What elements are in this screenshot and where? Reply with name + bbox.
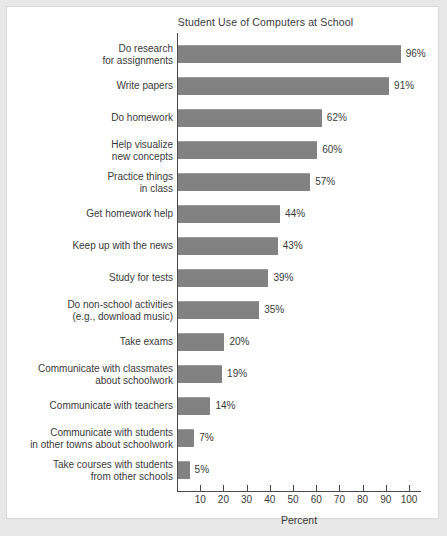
axis-tick	[293, 485, 294, 491]
category-label: Do homework	[11, 112, 173, 124]
axis-tick	[363, 485, 364, 491]
bar-row: Do research for assignments96%	[7, 38, 440, 70]
chart-title: Student Use of Computers at School	[7, 16, 440, 28]
category-label: Write papers	[11, 80, 173, 92]
chart-panel: Student Use of Computers at School Do re…	[6, 6, 439, 519]
axis-tick	[200, 485, 201, 491]
category-label: Do non-school activities (e.g., download…	[11, 299, 173, 322]
chart-page: Student Use of Computers at School Do re…	[0, 0, 447, 536]
bar-value-label: 5%	[195, 462, 209, 478]
category-label: Help visualize new concepts	[11, 139, 173, 162]
bar-value-label: 7%	[199, 430, 213, 446]
bar-value-label: 20%	[229, 334, 249, 350]
bar-row: Write papers91%	[7, 70, 440, 102]
axis-tick	[270, 485, 271, 491]
bar	[178, 173, 310, 191]
category-label: Study for tests	[11, 272, 173, 284]
category-label: Communicate with classmates about school…	[11, 363, 173, 386]
bar-value-label: 39%	[273, 270, 293, 286]
bar-value-label: 14%	[215, 398, 235, 414]
bar-row: Communicate with teachers14%	[7, 390, 440, 422]
bar-row: Take exams20%	[7, 326, 440, 358]
category-label: Communicate with students in other towns…	[11, 427, 173, 450]
bar	[178, 77, 389, 95]
bar	[178, 397, 210, 415]
axis-tick	[409, 485, 410, 491]
axis-tick-label: 20	[218, 494, 229, 505]
axis-tick	[339, 485, 340, 491]
category-label: Take exams	[11, 336, 173, 348]
bar	[178, 461, 190, 479]
bar-value-label: 96%	[406, 46, 426, 62]
axis-tick	[223, 485, 224, 491]
bar-row: Practice things in class57%	[7, 166, 440, 198]
bar-value-label: 35%	[264, 302, 284, 318]
category-label: Take courses with students from other sc…	[11, 459, 173, 482]
bar	[178, 45, 401, 63]
bar	[178, 269, 268, 287]
bar	[178, 429, 194, 447]
value-axis-title: Percent	[177, 514, 421, 526]
axis-tick-label: 30	[241, 494, 252, 505]
plot-area: Do research for assignments96%Write pape…	[7, 33, 440, 503]
bar	[178, 333, 224, 351]
bar-value-label: 62%	[327, 110, 347, 126]
category-label: Get homework help	[11, 208, 173, 220]
bar-row: Do homework62%	[7, 102, 440, 134]
bar-value-label: 60%	[322, 142, 342, 158]
value-axis-line	[177, 491, 421, 492]
axis-tick-label: 100	[401, 494, 418, 505]
bar-value-label: 43%	[283, 238, 303, 254]
category-label: Practice things in class	[11, 171, 173, 194]
bar-row: Keep up with the news43%	[7, 230, 440, 262]
bar	[178, 141, 317, 159]
bar-row: Help visualize new concepts60%	[7, 134, 440, 166]
bar	[178, 301, 259, 319]
bar-row: Study for tests39%	[7, 262, 440, 294]
axis-tick-label: 40	[264, 494, 275, 505]
bar-row: Take courses with students from other sc…	[7, 454, 440, 486]
bar	[178, 237, 278, 255]
bar	[178, 205, 280, 223]
bar-row: Get homework help44%	[7, 198, 440, 230]
axis-tick-label: 10	[195, 494, 206, 505]
axis-tick-label: 50	[287, 494, 298, 505]
axis-tick	[316, 485, 317, 491]
bar-value-label: 91%	[394, 78, 414, 94]
category-label: Do research for assignments	[11, 43, 173, 66]
axis-tick	[386, 485, 387, 491]
bar-value-label: 57%	[315, 174, 335, 190]
bar-row: Communicate with students in other towns…	[7, 422, 440, 454]
bar	[178, 109, 322, 127]
bar	[178, 365, 222, 383]
category-label: Keep up with the news	[11, 240, 173, 252]
axis-tick-label: 90	[380, 494, 391, 505]
bar-value-label: 44%	[285, 206, 305, 222]
category-label: Communicate with teachers	[11, 400, 173, 412]
bar-row: Do non-school activities (e.g., download…	[7, 294, 440, 326]
axis-tick-label: 70	[334, 494, 345, 505]
bar-row: Communicate with classmates about school…	[7, 358, 440, 390]
axis-tick	[247, 485, 248, 491]
bar-value-label: 19%	[227, 366, 247, 382]
axis-tick-label: 80	[357, 494, 368, 505]
axis-tick-label: 60	[311, 494, 322, 505]
